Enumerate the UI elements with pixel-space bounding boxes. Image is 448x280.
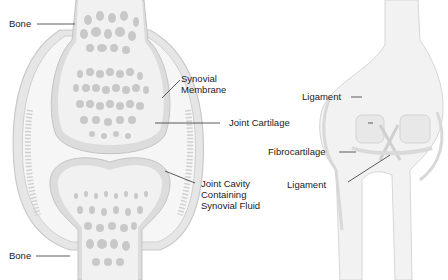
label-joint-cavity-line1: Joint Cavity xyxy=(201,178,250,189)
label-bone-top: Bone xyxy=(9,18,31,29)
label-synovial-membrane-line2: Membrane xyxy=(181,84,226,95)
knee-joint-illustration xyxy=(320,0,443,280)
label-ligament-top: Ligament xyxy=(302,91,341,102)
condyle-right xyxy=(400,115,430,143)
label-fibrocartilage: Fibrocartilage xyxy=(268,146,326,157)
label-joint-cavity-line3: Synovial Fluid xyxy=(201,200,260,211)
condyle-left xyxy=(356,115,384,143)
label-ligament-bottom: Ligament xyxy=(287,179,326,190)
label-joint-cartilage: Joint Cartilage xyxy=(229,117,290,128)
label-bone-bottom: Bone xyxy=(9,250,31,261)
synovial-joint-illustration xyxy=(13,0,203,280)
label-joint-cavity-line2: Containing xyxy=(201,189,246,200)
diagram-canvas xyxy=(0,0,448,280)
label-synovial-membrane-line1: Synovial xyxy=(181,73,217,84)
